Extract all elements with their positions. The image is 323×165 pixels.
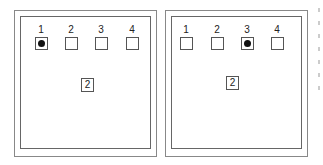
position-box xyxy=(95,37,108,50)
position-box xyxy=(65,37,78,50)
position-box xyxy=(271,37,284,50)
position-label: 2 xyxy=(56,25,86,36)
position-label: 2 xyxy=(202,25,232,36)
position-label: 3 xyxy=(86,25,116,36)
left-center-value: 2 xyxy=(81,78,94,92)
left-position-1: 1 xyxy=(26,25,56,50)
position-label: 1 xyxy=(171,25,201,36)
filled-dot-icon xyxy=(38,40,45,47)
position-label: 3 xyxy=(232,25,262,36)
position-label: 4 xyxy=(117,25,147,36)
left-position-3: 3 xyxy=(86,25,116,50)
left-position-4: 4 xyxy=(117,25,147,50)
right-position-1: 1 xyxy=(171,25,201,50)
position-box xyxy=(126,37,139,50)
right-position-2: 2 xyxy=(202,25,232,50)
position-box xyxy=(35,37,48,50)
position-label: 1 xyxy=(26,25,56,36)
right-center-value: 2 xyxy=(226,76,239,90)
right-position-3: 3 xyxy=(232,25,262,50)
position-box xyxy=(241,37,254,50)
right-position-4: 4 xyxy=(262,25,292,50)
filled-dot-icon xyxy=(244,40,251,47)
position-box xyxy=(180,37,193,50)
left-position-2: 2 xyxy=(56,25,86,50)
position-label: 4 xyxy=(262,25,292,36)
position-box xyxy=(211,37,224,50)
edge-artifacts xyxy=(318,8,322,99)
